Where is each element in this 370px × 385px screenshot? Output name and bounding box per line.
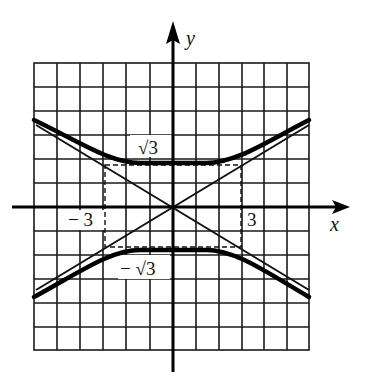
hyperbola-diagram: y x √3 − 3 3 − √3	[0, 0, 370, 385]
tick-label-sqrt3: √3	[138, 137, 158, 158]
y-axis-label: y	[184, 27, 195, 50]
x-axis-label: x	[329, 213, 339, 235]
tick-label-neg3: − 3	[68, 209, 93, 230]
tick-label-3: 3	[247, 209, 257, 230]
axes	[12, 21, 350, 372]
tick-label-neg-sqrt3: − √3	[120, 258, 155, 279]
